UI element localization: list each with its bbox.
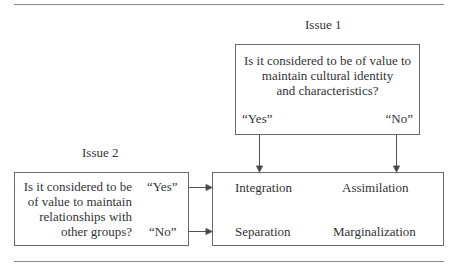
- arrowhead-right-icon: [206, 185, 212, 191]
- arrowhead-right-icon: [206, 229, 212, 235]
- arrows: [0, 0, 455, 268]
- arrowhead-down-icon: [257, 166, 263, 172]
- arrowhead-down-icon: [394, 166, 400, 172]
- bottom-rule: [14, 261, 444, 262]
